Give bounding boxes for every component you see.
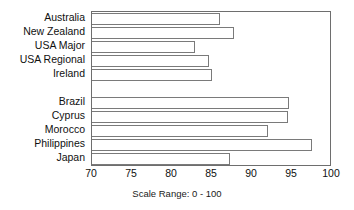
category-label: Cyprus [52,110,85,121]
category-label: Japan [56,152,85,163]
category-label: Ireland [53,68,85,79]
category-label: Australia [44,12,85,23]
category-labels: AustraliaNew ZealandUSA MajorUSA Regiona… [0,10,88,166]
category-label: Morocco [45,124,85,135]
bar [92,125,268,137]
bar [92,13,220,25]
x-tick-label: 100 [322,167,340,179]
scale-range-caption: Scale Range: 0 - 100 [0,188,354,199]
plot-area [91,11,331,166]
bar [92,111,288,123]
bar [92,153,230,165]
x-axis-tick-labels: 707580859095100 [91,166,331,182]
bar [92,139,312,151]
category-label: Brazil [59,96,85,107]
bar [92,41,195,53]
bar [92,69,212,81]
category-label: USA Regional [20,54,85,65]
x-tick-label: 85 [205,167,217,179]
x-tick-label: 90 [245,167,257,179]
category-label: New Zealand [23,26,85,37]
bars-layer [92,12,330,165]
bar [92,97,289,109]
bar [92,27,234,39]
bar-chart: AustraliaNew ZealandUSA MajorUSA Regiona… [0,0,354,210]
bar [92,55,209,67]
x-tick-label: 80 [165,167,177,179]
x-tick-label: 70 [85,167,97,179]
category-label: USA Major [35,40,85,51]
x-tick-label: 95 [285,167,297,179]
x-tick-label: 75 [125,167,137,179]
category-label: Philippines [34,138,85,149]
